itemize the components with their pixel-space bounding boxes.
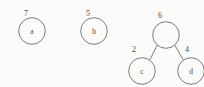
edge-root-to-d xyxy=(175,46,183,60)
diagram-canvas: a 7 b 5 6 c 2 d 4 xyxy=(0,0,204,87)
node-d[interactable]: d 4 xyxy=(178,45,204,85)
node-root[interactable]: 6 xyxy=(153,11,180,49)
node-root-weight: 6 xyxy=(158,11,162,20)
forest-diagram: a 7 b 5 6 c 2 d 4 xyxy=(0,0,204,87)
node-b-label: b xyxy=(92,27,96,36)
edge-root-to-c xyxy=(150,46,157,60)
node-b[interactable]: b 5 xyxy=(81,9,108,45)
node-a[interactable]: a 7 xyxy=(19,9,46,45)
node-c[interactable]: c 2 xyxy=(129,45,156,85)
node-b-weight: 5 xyxy=(86,9,90,18)
node-a-weight: 7 xyxy=(24,9,28,18)
node-d-weight: 4 xyxy=(185,45,189,54)
node-root-circle[interactable] xyxy=(153,22,180,49)
node-d-label: d xyxy=(189,67,193,76)
node-c-weight: 2 xyxy=(132,45,136,54)
